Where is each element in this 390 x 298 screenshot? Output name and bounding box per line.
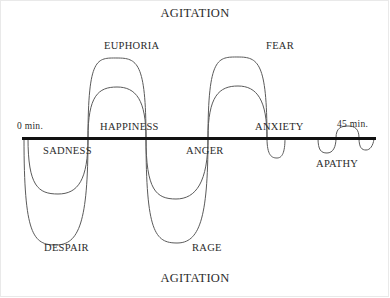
label-fear: FEAR xyxy=(266,41,294,52)
label-apathy: APATHY xyxy=(316,159,358,170)
emotion-oscillation-figure: AGITATION AGITATION 0 min. 45 min. EUPHO… xyxy=(0,0,390,298)
axis-start-label: 0 min. xyxy=(17,122,43,132)
bottom-title: AGITATION xyxy=(0,272,390,285)
label-anxiety: ANXIETY xyxy=(255,122,304,133)
label-rage: RAGE xyxy=(192,243,222,254)
label-despair: DESPAIR xyxy=(44,243,89,254)
label-sadness: SADNESS xyxy=(43,146,92,157)
label-happiness: HAPPINESS xyxy=(100,122,159,133)
axis-end-label: 45 min. xyxy=(337,120,368,130)
label-euphoria: EUPHORIA xyxy=(104,41,159,52)
top-title: AGITATION xyxy=(0,7,390,20)
label-anger: ANGER xyxy=(186,146,224,157)
